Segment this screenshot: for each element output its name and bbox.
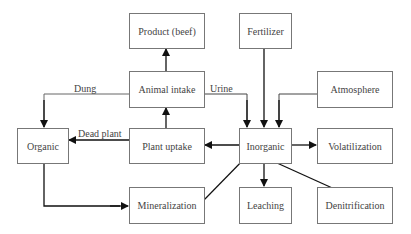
edge-label-dead-plant: Dead plant	[78, 128, 122, 139]
node-label: Mineralization	[138, 200, 197, 211]
edge-label-dung: Dung	[74, 83, 96, 94]
node-label: Volatilization	[328, 141, 382, 152]
node-label: Fertilizer	[247, 26, 284, 37]
node-atmosphere: Atmosphere	[317, 71, 393, 108]
node-label: Organic	[27, 141, 59, 152]
node-label: Atmosphere	[331, 84, 380, 95]
node-label: Inorganic	[246, 141, 284, 152]
node-plant-uptake: Plant uptake	[129, 128, 205, 164]
arrow-urine	[204, 94, 247, 127]
node-product: Product (beef)	[129, 13, 205, 49]
node-label: Plant uptake	[142, 141, 192, 152]
node-label: Leaching	[247, 200, 284, 211]
arrow-organic-to-mineralization	[44, 163, 120, 206]
node-mineralization: Mineralization	[129, 187, 205, 224]
node-fertilizer: Fertilizer	[239, 13, 292, 49]
node-volatilization: Volatilization	[317, 128, 393, 164]
node-animal-intake: Animal intake	[129, 71, 205, 108]
node-organic: Organic	[17, 128, 69, 164]
node-denitrification: Denitrification	[317, 187, 393, 224]
node-leaching: Leaching	[239, 187, 292, 224]
node-label: Animal intake	[139, 84, 196, 95]
node-inorganic: Inorganic	[239, 128, 292, 164]
edge-label-urine: Urine	[210, 83, 233, 94]
node-label: Product (beef)	[138, 26, 195, 37]
arrow-dung	[44, 94, 129, 127]
arrow-atmosphere	[279, 94, 317, 127]
node-label: Denitrification	[326, 200, 385, 211]
